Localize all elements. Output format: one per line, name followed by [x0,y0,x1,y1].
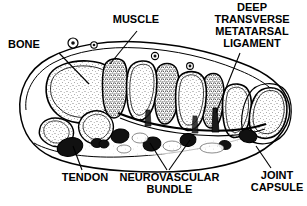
label-ligament-line2: TRANSVERSE [199,14,305,26]
label-ligament-line4: LIGAMENT [199,38,305,50]
label-joint-line1: JOINT [248,170,306,182]
label-bone: BONE [8,39,40,51]
anatomy-figure: BONE MUSCLE DEEP TRANSVERSE METATARSAL L… [0,0,307,206]
label-neurovascular-line1: NEUROVASCULAR [112,172,227,184]
label-joint-line2: CAPSULE [248,182,306,194]
label-ligament-line3: METATARSAL [199,26,305,38]
fifth-metatarsal-bone [249,88,287,139]
label-ligament-line1: DEEP [199,2,305,14]
label-tendon: TENDON [52,172,118,184]
label-muscle: MUSCLE [104,14,168,26]
label-neurovascular-line2: BUNDLE [112,184,227,196]
